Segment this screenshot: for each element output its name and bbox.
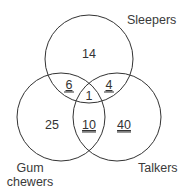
gum-chewers-circle <box>17 73 105 161</box>
region-sleepers-talkers: 4 <box>106 78 113 92</box>
talkers-circle <box>73 73 161 161</box>
region-all-three: 1 <box>86 89 93 103</box>
region-talkers-only: 40 <box>117 118 131 132</box>
region-sleepers-only: 14 <box>82 47 96 61</box>
venn-diagram: Sleepers Gum chewers Talkers 14 25 40 6 … <box>0 0 192 194</box>
gum-chewers-label-line1: Gum <box>16 161 43 175</box>
region-gum-talkers: 10 <box>82 118 96 132</box>
sleepers-label: Sleepers <box>127 13 176 27</box>
gum-chewers-label-line2: chewers <box>7 175 54 189</box>
talkers-label: Talkers <box>138 161 178 175</box>
region-gum-only: 25 <box>45 118 59 132</box>
region-sleepers-gum: 6 <box>66 78 73 92</box>
